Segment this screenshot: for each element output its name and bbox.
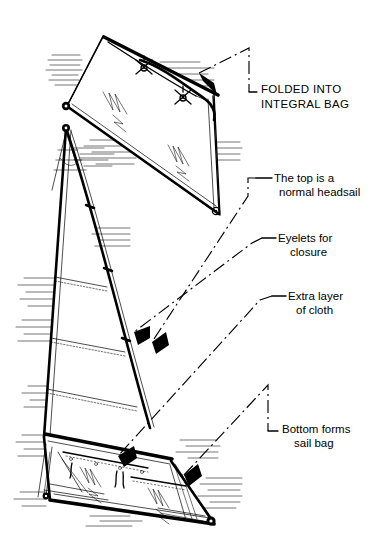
- callout-eyelets-line1: Eyelets for: [278, 232, 332, 244]
- grommet-tack-hole: [45, 495, 47, 497]
- grommet-head-hole: [65, 127, 68, 130]
- grommet-clew-hole: [209, 519, 212, 522]
- callout-top-line2: normal headsail: [279, 186, 360, 198]
- callout-extra-line2: of cloth: [296, 304, 333, 316]
- callout-top-line1: The top is a: [274, 172, 335, 184]
- callout-extra-line1: Extra layer: [288, 290, 343, 302]
- callout-folded-line2: INTEGRAL BAG: [261, 98, 349, 110]
- callout-eyelets-line2: closure: [290, 246, 327, 258]
- callout-bottom-line1: Bottom forms: [282, 423, 351, 435]
- sail-bag-diagram: FOLDED INTO INTEGRAL BAG The top is a no…: [0, 0, 379, 560]
- callout-bottom-line2: sail bag: [294, 437, 334, 449]
- grommet-folded-left-hole: [65, 105, 68, 108]
- grommet-folded-bottom-hole: [215, 210, 217, 212]
- callout-folded-line1: FOLDED INTO: [261, 83, 341, 95]
